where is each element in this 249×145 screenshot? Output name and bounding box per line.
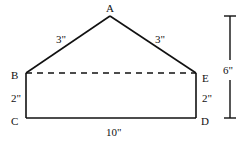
length-label-ed: 2" [202, 92, 212, 104]
length-label-ab: 3" [56, 33, 66, 45]
vertex-label-d: D [201, 115, 209, 127]
length-label-bc: 2" [11, 92, 21, 104]
length-label-ae: 3" [155, 33, 165, 45]
vertex-label-a: A [106, 2, 114, 14]
length-label-cd: 10" [106, 126, 122, 138]
pentagon-diagram: A B C D E 3" 3" 2" 2" 10" 6" [0, 0, 249, 145]
dimension-label-height: 6" [223, 64, 233, 76]
vertex-label-b: B [11, 69, 18, 81]
segment-ab [26, 16, 110, 73]
vertex-label-e: E [202, 72, 209, 84]
segment-ae [110, 16, 196, 73]
vertex-label-c: C [11, 115, 18, 127]
